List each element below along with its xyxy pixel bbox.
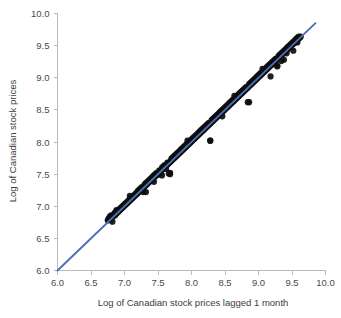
x-tick-label: 8.0 <box>185 277 198 288</box>
plot-canvas: 6.06.57.07.58.08.59.09.510.0 6.06.57.07.… <box>0 0 341 318</box>
y-axis-title: Log of Canadian stock prices <box>7 79 18 202</box>
x-tick-label: 7.0 <box>118 277 131 288</box>
y-tick-label: 8.5 <box>36 104 49 115</box>
y-tick-label: 7.5 <box>36 169 49 180</box>
x-axis-tick-labels: 6.06.57.07.58.08.59.09.510.0 <box>51 277 335 288</box>
data-point <box>274 63 280 69</box>
y-tick-label: 6.0 <box>36 265 49 276</box>
x-tick-label: 7.5 <box>151 277 164 288</box>
identity-reference-line <box>58 23 316 270</box>
y-tick-label: 9.5 <box>36 40 49 51</box>
data-point <box>267 73 273 79</box>
x-tick-label: 10.0 <box>316 277 335 288</box>
data-point <box>246 99 252 105</box>
data-point <box>143 189 149 195</box>
data-point <box>207 138 213 144</box>
scatter-plot-figure: 6.06.57.07.58.08.59.09.510.0 6.06.57.07.… <box>0 0 341 318</box>
data-point <box>167 170 173 176</box>
y-tick-label: 8.0 <box>36 137 49 148</box>
data-point <box>290 48 296 54</box>
x-tick-label: 6.0 <box>51 277 64 288</box>
y-tick-label: 7.0 <box>36 201 49 212</box>
x-tick-label: 8.5 <box>218 277 231 288</box>
x-tick-label: 6.5 <box>84 277 97 288</box>
y-axis-tick-labels: 6.06.57.07.58.08.59.09.510.0 <box>31 8 50 276</box>
y-tick-label: 10.0 <box>31 8 50 19</box>
x-tick-label: 9.5 <box>285 277 298 288</box>
y-tick-label: 6.5 <box>36 233 49 244</box>
x-axis-title: Log of Canadian stock prices lagged 1 mo… <box>98 297 289 308</box>
y-tick-label: 9.0 <box>36 72 49 83</box>
x-tick-label: 9.0 <box>252 277 265 288</box>
